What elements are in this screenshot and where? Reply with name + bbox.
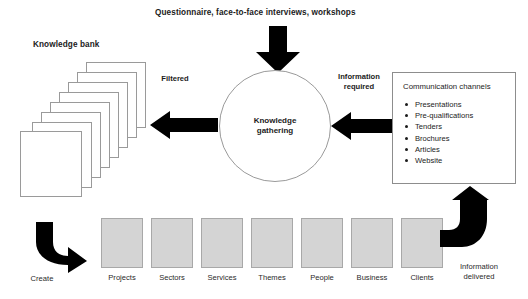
down-arrow-input [256,26,304,74]
create-label: Create [17,274,67,284]
top-heading: Questionnaire, face-to-face interviews, … [155,8,356,18]
category-box-business [351,218,393,268]
information-delivered-line1: Information [460,262,498,271]
knowledge-gathering-line1: Knowledge [254,116,297,125]
communication-channel-item: Articles [403,144,515,155]
communication-channel-item: Tenders [403,121,515,132]
communication-channels-list: Presentations Pre-qualifications Tenders… [403,99,515,166]
information-required-label: Information required [325,72,393,91]
information-delivered-curved-arrow [440,186,490,248]
communication-channel-item: Website [403,155,515,166]
category-box-people [301,218,343,268]
category-box-projects [101,218,143,268]
information-delivered-line2: delivered [464,272,495,281]
knowledge-gathering-line2: gathering [257,126,293,135]
filtered-arrow-left [150,110,218,140]
information-delivered-label: Information delivered [441,262,517,282]
category-box-sectors [151,218,193,268]
category-box-themes [251,218,293,268]
communication-channel-item: Presentations [403,99,515,110]
knowledge-bank-card-front [20,131,82,197]
information-required-line2: required [344,82,374,91]
communication-channel-item: Pre-qualifications [403,110,515,121]
diagram-canvas: Questionnaire, face-to-face interviews, … [0,0,528,299]
knowledge-gathering-circle: Knowledge gathering [219,70,331,182]
filtered-label: Filtered [145,74,205,84]
information-required-line1: Information [338,72,380,81]
communication-channel-item: Brochures [403,133,515,144]
communication-channels-title: Communication channels [403,81,515,92]
category-box-services [201,218,243,268]
knowledge-gathering-label: Knowledge gathering [254,116,297,137]
information-required-arrow-left [331,111,395,141]
knowledge-bank-stack [0,0,160,210]
category-box-clients [401,218,443,268]
communication-channels-box: Communication channels Presentations Pre… [392,72,516,184]
create-curved-arrow [32,222,88,274]
